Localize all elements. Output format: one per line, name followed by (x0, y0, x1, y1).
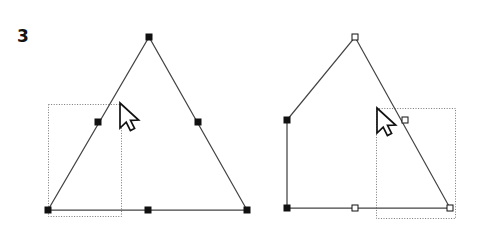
before-panel (45, 34, 250, 217)
selection-marquee-left[interactable] (49, 105, 122, 217)
illustration-canvas: 3 (0, 0, 481, 238)
midpoint-right-edge[interactable] (402, 117, 408, 123)
mouse-cursor-left[interactable] (120, 103, 139, 131)
node-apex[interactable] (146, 34, 152, 40)
node-left-upper[interactable] (284, 117, 290, 123)
node-bottom-left[interactable] (284, 205, 290, 211)
node-apex[interactable] (352, 34, 358, 40)
mouse-cursor-right[interactable] (377, 108, 396, 136)
triangle-deformed[interactable] (287, 37, 450, 208)
triangle-original[interactable] (48, 37, 247, 210)
midpoint-right-edge[interactable] (195, 119, 201, 125)
cursor-arrow-glyph (377, 108, 396, 136)
vector-shapes-figure (0, 0, 481, 238)
midpoint-bottom-edge[interactable] (352, 205, 358, 211)
node-bottom-left[interactable] (45, 207, 51, 213)
node-bottom-right[interactable] (447, 205, 453, 211)
node-bottom-right[interactable] (244, 207, 250, 213)
after-panel (284, 34, 456, 219)
cursor-arrow-glyph (120, 103, 139, 131)
midpoint-bottom-edge[interactable] (145, 207, 151, 213)
midpoint-left-edge[interactable] (95, 119, 101, 125)
